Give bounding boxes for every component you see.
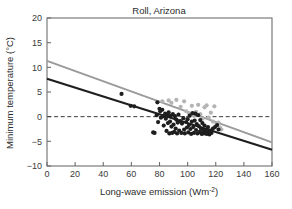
x-tick-label: 0 [44, 169, 49, 179]
y-tick-label: 5 [37, 87, 42, 97]
data-point [129, 104, 133, 108]
y-tick-label: −10 [27, 161, 42, 171]
chart-title: Roll, Arizona [132, 5, 186, 16]
data-point [176, 113, 180, 117]
x-axis-label: Long-wave emission (Wm-2) [100, 186, 218, 197]
y-axis-label: Minimum temperature (°C) [4, 37, 15, 149]
data-point [196, 113, 200, 117]
x-tick-label: 160 [264, 169, 279, 179]
data-point [216, 127, 220, 131]
data-point [168, 120, 172, 124]
data-point [155, 113, 159, 117]
data-point [164, 117, 168, 121]
x-tick-label: 80 [154, 169, 164, 179]
data-point [152, 131, 156, 135]
chart-figure: 02040608010012014016020151050−5−10 Roll,… [0, 0, 292, 209]
data-point [132, 104, 136, 108]
data-point [169, 101, 173, 105]
data-point [209, 111, 213, 115]
data-point [178, 105, 182, 109]
y-tick-label: 20 [32, 13, 42, 23]
data-point [215, 123, 219, 127]
data-point [160, 99, 164, 103]
data-point [162, 123, 166, 127]
x-tick-label: 120 [208, 169, 223, 179]
data-point [174, 126, 178, 130]
data-point [205, 103, 209, 107]
data-point [209, 131, 213, 135]
data-point [156, 120, 160, 124]
data-point [190, 104, 194, 108]
x-tick-label: 40 [98, 169, 108, 179]
x-tick-label: 140 [236, 169, 251, 179]
data-point [180, 121, 184, 125]
data-point [207, 116, 211, 120]
data-point [160, 108, 164, 112]
data-point [171, 122, 175, 126]
data-point [119, 92, 123, 96]
x-tick-label: 60 [126, 169, 136, 179]
scatter-plot: 02040608010012014016020151050−5−10 Roll,… [0, 0, 292, 209]
data-point [181, 116, 185, 120]
data-point [196, 103, 200, 107]
data-point [179, 131, 183, 135]
data-point [182, 99, 186, 103]
data-point [211, 120, 215, 124]
data-point [174, 98, 178, 102]
data-point [212, 104, 216, 108]
y-tick-label: 10 [32, 63, 42, 73]
x-tick-label: 20 [70, 169, 80, 179]
y-tick-label: 0 [37, 112, 42, 122]
data-point [183, 131, 187, 135]
x-tick-label: 100 [180, 169, 195, 179]
y-tick-label: 15 [32, 38, 42, 48]
data-point [187, 123, 191, 127]
y-tick-label: −5 [32, 137, 42, 147]
data-point [155, 100, 159, 104]
